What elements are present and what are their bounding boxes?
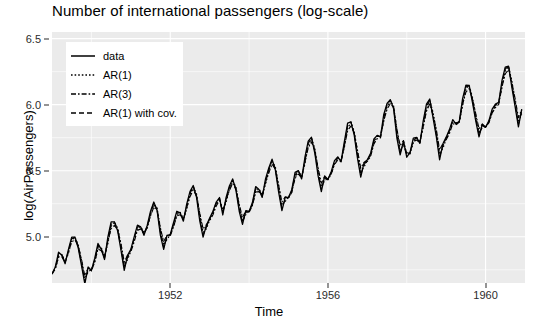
legend-label: data [103, 50, 124, 62]
chart-root: Number of international passengers (log-… [0, 0, 538, 330]
x-tick-mark [485, 283, 486, 288]
legend-item: AR(3) [70, 84, 177, 103]
legend-label: AR(1) [103, 69, 132, 81]
x-tick-mark [170, 283, 171, 288]
legend-label: AR(3) [103, 88, 132, 100]
y-tick-mark [44, 170, 49, 171]
x-tick-label: 1960 [473, 289, 497, 301]
y-tick-mark [44, 104, 49, 105]
legend-key-dashed-icon [70, 106, 96, 120]
legend-key-solid-icon [70, 49, 96, 63]
legend-key-dotted-icon [70, 68, 96, 82]
y-tick-mark [44, 236, 49, 237]
legend: dataAR(1)AR(3)AR(1) with cov. [66, 42, 183, 126]
chart-title: Number of international passengers (log-… [52, 2, 368, 19]
x-tick-label: 1952 [158, 289, 182, 301]
x-axis-title: Time [0, 304, 538, 319]
x-tick-mark [327, 283, 328, 288]
y-tick-mark [44, 38, 49, 39]
x-tick-label: 1956 [316, 289, 340, 301]
legend-item: AR(1) [70, 65, 177, 84]
legend-key-dashdot-icon [70, 87, 96, 101]
y-tick-label: 6.5 [26, 33, 41, 45]
legend-label: AR(1) with cov. [103, 107, 177, 119]
legend-item: AR(1) with cov. [70, 103, 177, 122]
legend-item: data [70, 46, 177, 65]
y-axis-title: log(AirPassengers) [21, 86, 36, 246]
